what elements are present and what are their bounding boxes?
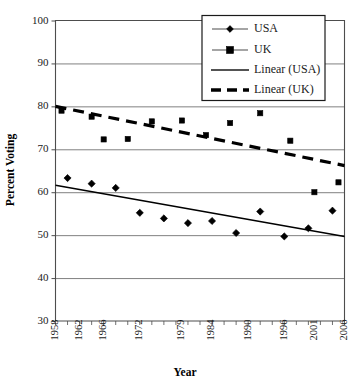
uk-point-1964 — [89, 114, 94, 119]
xtick-label-2006: 2006 — [338, 320, 349, 341]
ytick-label-40: 40 — [38, 271, 50, 283]
uk-point-1983 — [203, 133, 208, 138]
usa-point-1980 — [184, 220, 191, 227]
xtick-label-1972: 1972 — [133, 320, 144, 341]
uk-point-1979 — [179, 118, 184, 123]
xtick-label-1966: 1966 — [97, 320, 108, 341]
uk-point-1992 — [258, 111, 263, 116]
uk-point-2005 — [336, 180, 341, 185]
uk-point-1959 — [59, 108, 64, 113]
usa-point-2004 — [329, 207, 336, 214]
ytick-label-100: 100 — [32, 14, 49, 26]
y-axis-title: Percent Voting — [4, 134, 17, 207]
legend-label-linear-usa: Linear (USA) — [254, 62, 320, 76]
usa-point-1968 — [112, 184, 119, 191]
usa-point-1992 — [257, 208, 264, 215]
legend-label-usa: USA — [254, 21, 278, 35]
uk-point-1974 — [149, 119, 154, 124]
ytick-label-70: 70 — [38, 142, 50, 154]
xtick-label-1984: 1984 — [205, 319, 216, 341]
ytick-label-30: 30 — [38, 314, 50, 326]
legend-label-uk: UK — [254, 42, 272, 56]
ytick-label-80: 80 — [38, 99, 50, 111]
usa-point-1972 — [136, 209, 143, 216]
y-axis-ticks — [52, 21, 56, 322]
usa-point-1996 — [281, 233, 288, 240]
uk-point-1970 — [125, 136, 130, 141]
series-usa-markers — [64, 174, 336, 240]
xtick-label-1979: 1979 — [175, 320, 186, 341]
xtick-label-1990: 1990 — [242, 320, 253, 341]
xtick-label-1958: 1958 — [49, 320, 60, 341]
ytick-label-90: 90 — [38, 56, 50, 68]
uk-point-1987 — [228, 120, 233, 125]
voter-turnout-chart: 30405060708090100 1958196219661972197919… — [0, 0, 362, 387]
legend: USAUKLinear (USA)Linear (UK) — [202, 16, 325, 101]
ytick-label-50: 50 — [38, 228, 50, 240]
usa-point-1976 — [160, 215, 167, 222]
uk-point-1966 — [101, 137, 106, 142]
x-axis-title: Year — [174, 366, 197, 378]
xtick-label-2001: 2001 — [308, 320, 319, 341]
xtick-label-1996: 1996 — [278, 320, 289, 341]
x-axis-tick-labels: 1958196219661972197919841990199620012006 — [49, 319, 349, 341]
chart-svg: 30405060708090100 1958196219661972197919… — [0, 0, 362, 387]
xtick-label-1962: 1962 — [73, 320, 84, 341]
trend-line-uk — [56, 106, 345, 165]
usa-point-1984 — [208, 217, 215, 224]
usa-point-1960 — [64, 174, 71, 181]
trendline-uk — [56, 106, 345, 165]
series-uk-markers — [59, 108, 341, 195]
usa-point-1964 — [88, 180, 95, 187]
legend-square-icon — [227, 47, 234, 54]
uk-point-1997 — [288, 138, 293, 143]
ytick-label-60: 60 — [38, 185, 50, 197]
y-axis-tick-labels: 30405060708090100 — [32, 14, 49, 327]
uk-point-2001 — [312, 190, 317, 195]
legend-label-linear-uk: Linear (UK) — [254, 82, 314, 96]
